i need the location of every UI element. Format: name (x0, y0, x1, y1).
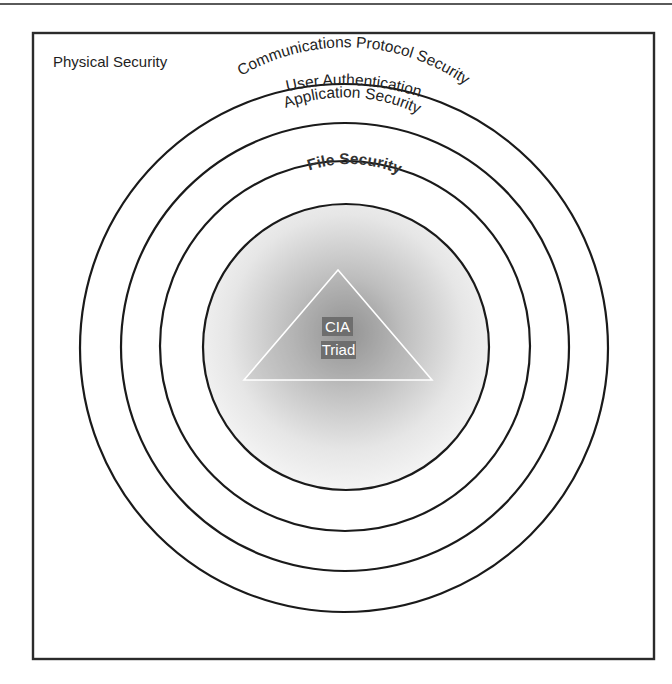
cia-label: CIA (325, 318, 350, 335)
physical-security-label: Physical Security (53, 53, 168, 70)
triad-label: Triad (322, 341, 356, 358)
file-security-label: File Security (305, 150, 405, 177)
security-layers-diagram: Physical Security User Authentication Co… (0, 0, 672, 684)
